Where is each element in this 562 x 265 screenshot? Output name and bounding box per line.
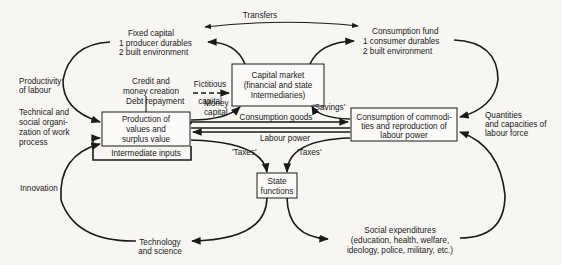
innovation-arrow [61, 144, 136, 241]
state-to-technology-arrow [192, 198, 267, 241]
money-capital-label: Money capital [204, 99, 229, 117]
svg-text:zation of work: zation of work [19, 128, 70, 137]
capital-to-fund-arrow [310, 41, 354, 64]
svg-text:2 built environment: 2 built environment [363, 47, 433, 56]
svg-text:State: State [267, 177, 287, 186]
consumption-reproduction-node: Consumption of commodi- ties and reprodu… [351, 108, 457, 141]
social-expenditures-node: Social expenditures (education, health, … [347, 226, 453, 255]
svg-text:1 producer durables: 1 producer durables [119, 39, 192, 48]
svg-text:1 consumer durables: 1 consumer durables [363, 37, 439, 46]
svg-text:process: process [19, 138, 48, 147]
svg-text:labour power: labour power [380, 131, 428, 140]
taxes-left-label: 'Taxes' [232, 148, 257, 157]
svg-text:Intermediaries): Intermediaries) [251, 91, 306, 100]
svg-text:functions: functions [261, 187, 294, 196]
consumption-goods-label: Consumption goods [240, 113, 313, 122]
transfers-label: Transfers [243, 11, 277, 20]
svg-text:Production of: Production of [122, 115, 171, 124]
svg-text:social organi-: social organi- [19, 118, 68, 127]
svg-text:(education, health, welfare,: (education, health, welfare, [351, 236, 449, 245]
fund-to-consumption-arrow [454, 40, 498, 117]
svg-text:Credit and: Credit and [132, 77, 170, 86]
svg-text:money creation: money creation [123, 87, 179, 96]
technology-node: Technology and science [138, 238, 182, 256]
state-functions-node: State functions [257, 173, 297, 198]
svg-text:of labour: of labour [19, 86, 51, 95]
svg-text:ties and reproduction of: ties and reproduction of [361, 122, 447, 131]
svg-text:and science: and science [138, 247, 182, 256]
consumption-fund-node: Consumption fund 1 consumer durables 2 b… [363, 27, 439, 56]
transfers-arrow [205, 22, 358, 27]
svg-text:capital: capital [204, 108, 228, 117]
productivity-label: Productivity of labour [19, 77, 62, 95]
svg-text:and capacities of: and capacities of [485, 120, 547, 129]
quantities-label: Quantities and capacities of labour forc… [485, 111, 547, 138]
svg-text:ideology, police, military, et: ideology, police, military, etc.) [347, 246, 453, 255]
credit-label: Credit and money creation [123, 77, 179, 96]
svg-text:surplus value: surplus value [122, 135, 171, 144]
svg-text:labour force: labour force [485, 129, 529, 138]
svg-text:Technical and: Technical and [19, 108, 70, 117]
svg-text:2 built environment: 2 built environment [119, 48, 189, 57]
svg-text:Social expenditures: Social expenditures [364, 226, 435, 235]
productivity-arrow [63, 42, 110, 122]
svg-text:Consumption of commodi-: Consumption of commodi- [356, 113, 452, 122]
social-to-consumption-arrow [460, 132, 505, 238]
svg-text:Money: Money [204, 99, 229, 108]
svg-text:values and: values and [126, 125, 166, 134]
taxes-right-label: 'Taxes' [297, 148, 322, 157]
svg-text:(financial and state: (financial and state [244, 81, 313, 90]
fixed-capital-node: Fixed capital 1 producer durables 2 buil… [119, 29, 192, 57]
flow-diagram: Transfers Fixed capital 1 producer durab… [0, 0, 562, 265]
svg-text:Intermediate inputs: Intermediate inputs [111, 149, 181, 158]
svg-text:Technology: Technology [139, 238, 181, 247]
technical-organization-label: Technical and social organi- zation of w… [19, 108, 70, 147]
svg-text:Quantities: Quantities [485, 111, 522, 120]
production-node: Production of values and surplus value [102, 112, 190, 146]
labour-power-label: Labour power [260, 134, 310, 143]
capital-to-fixed-arrow [208, 42, 245, 64]
capital-market-node: Capital market (financial and state Inte… [232, 64, 324, 106]
svg-text:Fictitious: Fictitious [194, 80, 226, 89]
debt-repayment-label: Debt repayment [126, 97, 185, 106]
svg-text:Productivity: Productivity [19, 77, 62, 86]
svg-text:Consumption fund: Consumption fund [372, 27, 439, 36]
svg-text:Fixed capital: Fixed capital [128, 29, 174, 38]
state-to-social-arrow [287, 198, 328, 239]
savings-label: 'Savings' [313, 103, 346, 112]
svg-text:Capital market: Capital market [252, 71, 306, 80]
consumption-goods-arrow [191, 122, 348, 124]
innovation-label: Innovation [20, 184, 58, 193]
